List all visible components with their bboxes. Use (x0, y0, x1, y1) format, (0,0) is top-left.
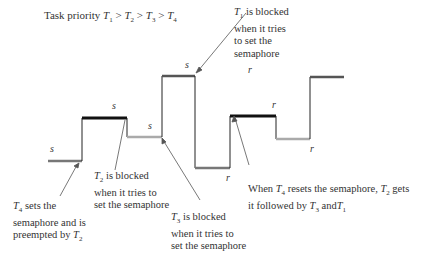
segment-label: r (310, 143, 314, 154)
segment-label: s (112, 100, 116, 111)
segment-label: s (185, 59, 189, 70)
segment-label: s (148, 120, 152, 131)
annotation-t2-blocked: T2 is blockedwhen it tries toset the sem… (94, 170, 169, 212)
segment-label: s (50, 143, 54, 154)
step-lines (48, 76, 344, 168)
annotation-t3-blocked: T3 is blockedwhen it tries toset the sem… (171, 211, 246, 253)
annotation-t4-resets: When T4 resets the semaphore, T2 getsit … (248, 183, 409, 216)
segment-label: r (272, 99, 276, 110)
annotation-t4-sets: T4 sets thesemaphore and ispreempted by … (13, 200, 86, 246)
segment-label: r (248, 64, 252, 75)
segment-label: r (226, 172, 230, 183)
annotation-t1-blocked: T1 is blockedwhen it triesto set thesema… (234, 6, 289, 60)
